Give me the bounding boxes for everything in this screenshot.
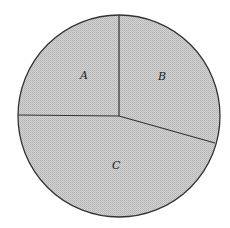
label-c: C <box>112 159 121 172</box>
pie-chart: A B C <box>0 0 230 228</box>
label-a: A <box>79 69 88 82</box>
label-b: B <box>157 70 166 83</box>
